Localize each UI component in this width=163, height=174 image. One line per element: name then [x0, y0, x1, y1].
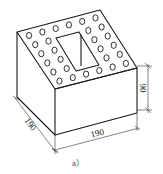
round-hole: [117, 51, 122, 57]
brick-diagram: 190 190 90 a）: [0, 0, 163, 174]
top-face: [17, 10, 137, 89]
round-hole: [93, 15, 98, 21]
figure-caption: a）: [72, 159, 84, 168]
round-hole: [58, 56, 63, 62]
round-hole: [84, 71, 89, 77]
round-hole: [51, 69, 56, 75]
dimension-depth: 190: [13, 96, 58, 154]
dimension-depth-label: 190: [22, 116, 38, 133]
round-hole: [104, 55, 109, 61]
front-face: [55, 68, 137, 135]
round-hole: [57, 78, 62, 84]
round-hole: [92, 37, 97, 43]
round-hole: [64, 65, 69, 71]
round-hole: [46, 38, 51, 44]
round-hole: [27, 32, 32, 38]
round-hole: [66, 22, 71, 28]
round-hole: [97, 67, 102, 73]
dimension-height-label: 90: [138, 84, 148, 94]
round-hole: [40, 29, 45, 35]
round-hole: [52, 47, 57, 53]
round-hole: [53, 25, 58, 31]
round-hole: [80, 18, 85, 24]
round-hole: [110, 64, 115, 70]
round-hole: [70, 75, 75, 81]
round-hole: [45, 60, 50, 66]
round-hole: [33, 42, 38, 48]
brick-body: [17, 10, 137, 135]
dimension-height: 90: [137, 63, 152, 113]
round-hole: [99, 24, 104, 30]
round-hole: [98, 46, 103, 52]
round-hole: [39, 51, 44, 57]
round-hole: [86, 27, 91, 33]
round-hole: [105, 33, 110, 39]
round-hole: [111, 42, 116, 48]
round-hole: [123, 60, 128, 66]
